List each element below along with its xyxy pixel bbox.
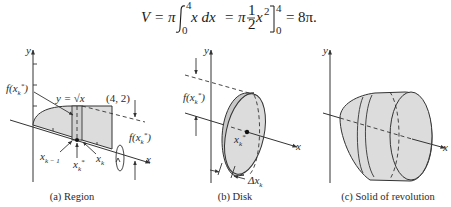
caption-region: (a) Region <box>50 191 95 203</box>
solid-end-face <box>390 92 432 180</box>
label-x-k-minus-1: xk − 1 <box>39 150 60 165</box>
disk-x-axis-label: x <box>295 140 301 152</box>
rotation-indicator-icon <box>116 145 124 171</box>
eq-integrand: x dx <box>190 9 216 25</box>
figure-canvas: V = π 4 0 x dx = π 1 2 x 2 4 0 = 8π. y <box>0 0 451 207</box>
delta-arrow-right <box>234 176 245 179</box>
disk-y-axis-label: y <box>203 44 209 56</box>
region-point-label: (4, 2) <box>106 92 130 105</box>
eq-pi-1: π <box>168 9 176 25</box>
region-x-axis-label: x <box>145 153 151 165</box>
caption-solid: (c) Solid of revolution <box>341 191 435 203</box>
eq-frac-den: 2 <box>248 16 256 32</box>
label-x-k-star: xk* <box>72 158 85 173</box>
eq-pi-2: π <box>238 9 246 25</box>
delta-tick-left <box>218 163 222 175</box>
disk-top-dashed <box>185 75 256 95</box>
region-curve-label: y = √x <box>55 92 85 104</box>
xk-minus-1-arrow <box>60 141 72 152</box>
eq-equals-2: = <box>225 9 233 25</box>
label-x-k: xk <box>95 152 105 167</box>
solid-x-axis-left <box>323 113 340 118</box>
solid-x-axis-label: x <box>442 141 448 153</box>
panel-region: y x y = √x (4, 2) f(xk*) f(xk*) <box>6 44 151 203</box>
eq-result: 8π. <box>298 9 317 25</box>
solid-y-axis-label: y <box>322 44 328 56</box>
panel-disk: y x xk* f(xk*) Δxk (b) Disk <box>183 44 301 203</box>
eq-equals-1: = <box>155 9 163 25</box>
disk-height-label: f(xk*) <box>183 91 205 106</box>
region-sample-point <box>75 138 79 142</box>
eq-eval-upper: 4 <box>276 2 282 14</box>
eval-bracket-icon <box>270 6 274 32</box>
rotation-arrowhead-icon <box>116 158 120 162</box>
eq-integral-lower: 0 <box>182 24 188 36</box>
eq-equals-3: = <box>286 9 294 25</box>
caption-disk: (b) Disk <box>218 191 253 203</box>
eq-eval-lower: 0 <box>276 24 282 36</box>
eq-x-term: x <box>255 9 263 25</box>
eq-x-exp: 2 <box>264 5 270 17</box>
volume-equation: V = π 4 0 x dx = π 1 2 x 2 4 0 = 8π. <box>141 0 317 36</box>
disk-delta-label: Δxk <box>247 174 263 189</box>
eq-lhs: V <box>141 9 152 25</box>
region-height-label-left: f(xk*) <box>6 82 28 97</box>
panel-solid: y x (c) Solid of revolution <box>322 44 448 203</box>
region-height-label-right: f(xk*) <box>129 131 151 146</box>
region-y-axis-label: y <box>25 44 31 56</box>
